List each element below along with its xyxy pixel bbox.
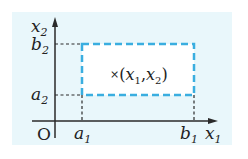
region-rectangle [82, 44, 194, 95]
tick-label-b1: b1 [180, 123, 198, 146]
y-axis-arrow-icon [52, 17, 58, 27]
x-axis-label: x1 [205, 123, 222, 146]
tick-label-a2: a2 [31, 84, 48, 107]
tick-label-a1: a1 [74, 123, 91, 146]
point-marker-icon: × [110, 68, 119, 81]
coordinate-diagram: x2 b2 a2 O a1 b1 x1 ×(x1,x2) [0, 0, 248, 159]
origin-label: O [37, 124, 51, 144]
